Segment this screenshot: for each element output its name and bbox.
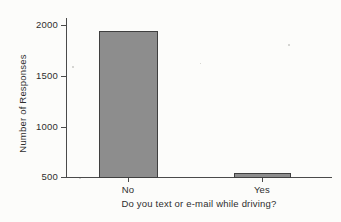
x-tick-mark-yes bbox=[262, 178, 263, 182]
scan-speck bbox=[200, 63, 201, 64]
y-tick-label-2000: 2000 bbox=[18, 19, 58, 30]
y-tick-label-500: 500 bbox=[18, 171, 58, 182]
x-tick-label-yes: Yes bbox=[254, 184, 270, 195]
y-axis-line bbox=[66, 18, 67, 178]
y-tick-mark-1500 bbox=[61, 76, 67, 77]
y-tick-mark-500 bbox=[61, 177, 67, 178]
bar-no bbox=[99, 31, 158, 178]
y-tick-mark-2000 bbox=[61, 25, 67, 26]
scan-speck bbox=[288, 44, 290, 46]
y-tick-label-1500: 1500 bbox=[18, 70, 58, 81]
x-axis-title: Do you text or e-mail while driving? bbox=[66, 198, 332, 209]
x-tick-mark-no bbox=[128, 178, 129, 182]
y-axis-title: Number of Responses bbox=[17, 44, 28, 164]
bar-chart-figure: Number of Responses 2000 1500 1000 500 N… bbox=[0, 0, 341, 222]
scan-speck bbox=[72, 66, 74, 68]
y-tick-mark-1000 bbox=[61, 127, 67, 128]
x-tick-label-no: No bbox=[122, 184, 135, 195]
y-tick-label-1000: 1000 bbox=[18, 121, 58, 132]
